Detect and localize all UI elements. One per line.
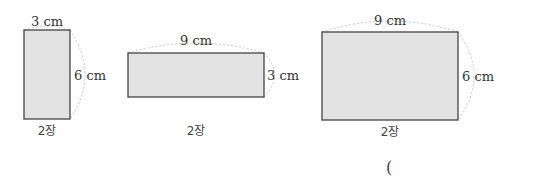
rectangle	[322, 32, 458, 120]
width-label: 9 cm	[180, 33, 212, 48]
rectangles-diagram: 3 cm 6 cm 2장 9 cm 3 cm 2장 9 cm 6 cm 2장 (	[0, 0, 553, 194]
count-label: 2장	[381, 125, 400, 139]
figure-2: 9 cm 3 cm 2장	[128, 33, 299, 138]
height-label: 3 cm	[267, 68, 299, 83]
width-label: 9 cm	[374, 13, 406, 28]
rectangle	[24, 30, 70, 119]
height-label: 6 cm	[462, 69, 494, 84]
height-label: 6 cm	[74, 68, 106, 83]
rectangle	[128, 53, 264, 97]
count-label: 2장	[38, 124, 57, 138]
answer-open-paren: (	[386, 158, 392, 177]
figure-3: 9 cm 6 cm 2장	[322, 13, 494, 139]
figure-1: 3 cm 6 cm 2장	[24, 14, 106, 138]
width-label: 3 cm	[31, 14, 63, 29]
count-label: 2장	[187, 124, 206, 138]
